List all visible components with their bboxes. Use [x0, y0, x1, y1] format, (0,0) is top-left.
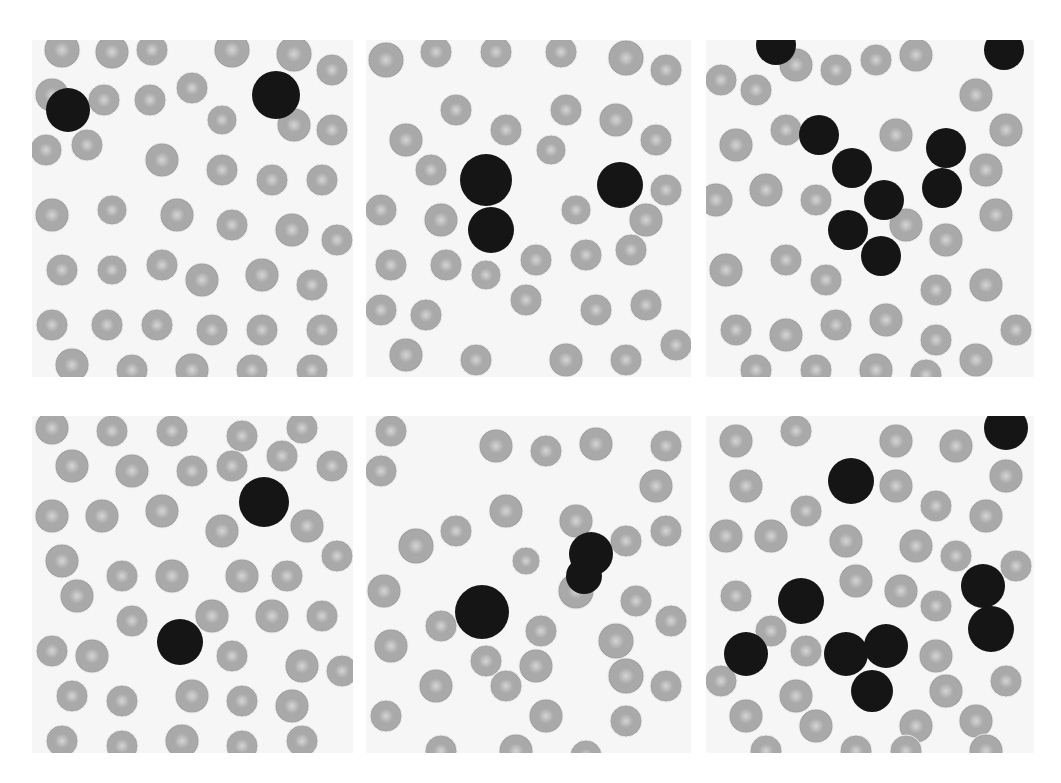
white-blood-cell [46, 88, 90, 132]
red-blood-cell [116, 605, 148, 637]
red-blood-cell [424, 203, 458, 237]
red-blood-cell [196, 314, 228, 346]
red-blood-cell [579, 427, 613, 461]
red-blood-cell [780, 416, 812, 447]
red-blood-cell [529, 699, 563, 733]
red-blood-cell [266, 440, 298, 472]
white-blood-cell [828, 210, 868, 250]
red-blood-cell [615, 234, 647, 266]
red-blood-cell [440, 94, 472, 126]
red-blood-cell [374, 629, 408, 663]
red-blood-cell [490, 670, 522, 702]
red-blood-cell [55, 348, 89, 377]
red-blood-cell [106, 685, 138, 717]
red-blood-cell [45, 544, 79, 578]
red-blood-cell [275, 213, 309, 247]
red-blood-cell [629, 203, 663, 237]
red-blood-cell [216, 209, 248, 241]
white-blood-cell [824, 632, 868, 676]
red-blood-cell [1000, 314, 1032, 346]
red-blood-cell [146, 249, 178, 281]
red-blood-cell [929, 674, 963, 708]
red-blood-cell [769, 318, 803, 352]
red-blood-cell [306, 600, 338, 632]
red-blood-cell [620, 585, 652, 617]
red-blood-cell [939, 429, 973, 463]
red-blood-cell [820, 54, 852, 86]
red-blood-cell [480, 40, 512, 68]
red-blood-cell [740, 74, 772, 106]
red-blood-cell [989, 113, 1023, 147]
red-blood-cell [799, 709, 833, 743]
red-blood-cell [979, 198, 1013, 232]
red-blood-cell [106, 730, 138, 753]
red-blood-cell [570, 740, 602, 753]
red-blood-cell [598, 623, 634, 659]
red-blood-cell [525, 615, 557, 647]
white-blood-cell [864, 180, 904, 220]
red-blood-cell [879, 424, 913, 458]
white-blood-cell [455, 585, 509, 639]
red-blood-cell [32, 134, 62, 166]
white-blood-cell [922, 168, 962, 208]
red-blood-cell [88, 84, 120, 116]
red-blood-cell [136, 40, 168, 66]
red-blood-cell [430, 249, 462, 281]
red-blood-cell [255, 599, 289, 633]
red-blood-cell [989, 459, 1023, 493]
red-blood-cell [884, 574, 918, 608]
red-blood-cell [790, 495, 822, 527]
white-blood-cell [468, 207, 514, 253]
red-blood-cell [460, 344, 492, 376]
red-blood-cell [214, 40, 250, 68]
micrograph-panel-row1-col1 [32, 40, 353, 377]
red-blood-cell [216, 450, 248, 482]
red-blood-cell [959, 343, 993, 377]
red-blood-cell [920, 274, 952, 306]
red-blood-cell [440, 515, 472, 547]
red-blood-cell [321, 540, 353, 572]
red-blood-cell [512, 547, 540, 575]
red-blood-cell [91, 309, 123, 341]
white-blood-cell [961, 564, 1005, 608]
red-blood-cell [750, 735, 782, 753]
red-blood-cell [85, 499, 119, 533]
red-blood-cell [35, 416, 69, 445]
micrograph-panel-row2-col2 [366, 416, 691, 753]
red-blood-cell [1000, 550, 1032, 582]
white-blood-cell [460, 154, 512, 206]
red-blood-cell [195, 599, 229, 633]
red-blood-cell [106, 560, 138, 592]
red-blood-cell [321, 224, 353, 256]
red-blood-cell [899, 529, 933, 563]
red-blood-cell [326, 655, 353, 687]
red-blood-cell [145, 494, 179, 528]
red-blood-cell [175, 353, 209, 377]
micrograph-panel-row1-col2 [366, 40, 691, 377]
red-blood-cell [306, 164, 338, 196]
red-blood-cell [490, 114, 522, 146]
white-blood-cell [799, 115, 839, 155]
red-blood-cell [286, 725, 318, 753]
red-blood-cell [549, 343, 583, 377]
red-blood-cell [165, 724, 199, 753]
white-blood-cell [926, 128, 966, 168]
white-blood-cell [984, 40, 1024, 70]
red-blood-cell [770, 244, 802, 276]
red-blood-cell [471, 260, 501, 290]
red-blood-cell [366, 194, 397, 226]
red-blood-cell [920, 590, 952, 622]
red-blood-cell [285, 649, 319, 683]
red-blood-cell [599, 103, 633, 137]
red-blood-cell [706, 64, 737, 96]
red-blood-cell [368, 42, 404, 78]
red-blood-cell [116, 354, 148, 377]
red-blood-cell [630, 289, 662, 321]
red-blood-cell [879, 118, 913, 152]
red-blood-cell [46, 725, 78, 753]
red-blood-cell [410, 299, 442, 331]
red-blood-cell [720, 580, 752, 612]
red-blood-cell [425, 610, 457, 642]
red-blood-cell [570, 239, 602, 271]
red-blood-cell [306, 314, 338, 346]
